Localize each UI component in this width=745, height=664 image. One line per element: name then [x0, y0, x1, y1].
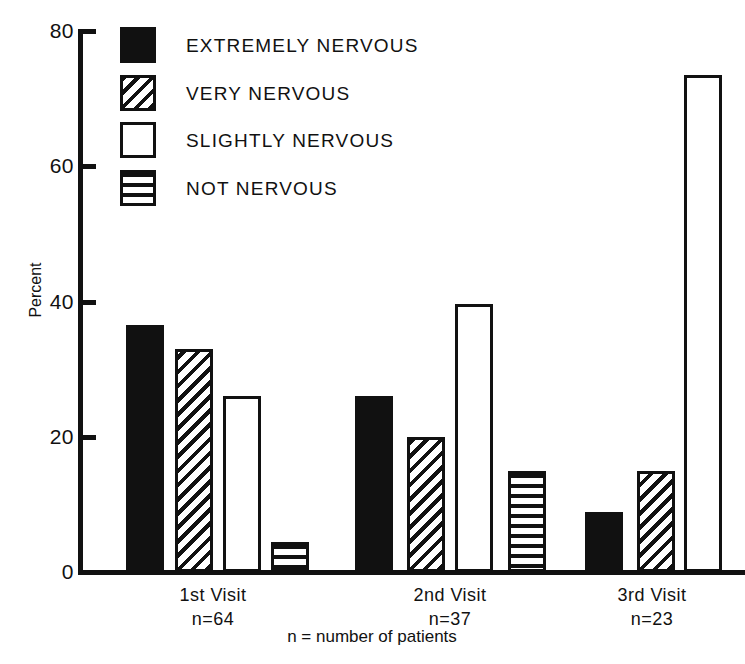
group-label-name: 1st Visit — [179, 585, 246, 605]
group-label-3: 3rd Visitn=23 — [562, 583, 742, 631]
bar-3rd-visit-slightly-nervous — [684, 75, 722, 572]
chart-footnote: n = number of patients — [222, 628, 522, 645]
bar-2nd-visit-very-nervous — [407, 437, 445, 572]
bars-plot-area — [0, 0, 745, 664]
chart-canvas: 806040200 Percent EXTREMELY NERVOUSVERY … — [0, 0, 745, 664]
bar-1st-visit-extremely-nervous — [126, 325, 164, 572]
bar-3rd-visit-extremely-nervous — [585, 512, 623, 572]
bar-2nd-visit-extremely-nervous — [355, 396, 393, 572]
group-label-2: 2nd Visitn=37 — [360, 583, 540, 631]
bar-1st-visit-not-nervous — [271, 542, 309, 572]
bar-3rd-visit-very-nervous — [637, 471, 675, 572]
bar-1st-visit-very-nervous — [175, 349, 213, 572]
group-label-name: 3rd Visit — [617, 585, 686, 605]
group-label-name: 2nd Visit — [413, 585, 486, 605]
bar-1st-visit-slightly-nervous — [223, 396, 261, 572]
bar-2nd-visit-not-nervous — [508, 471, 546, 572]
group-label-count: n=23 — [562, 607, 742, 631]
group-label-1: 1st Visitn=64 — [123, 583, 303, 631]
bar-2nd-visit-slightly-nervous — [455, 304, 493, 572]
